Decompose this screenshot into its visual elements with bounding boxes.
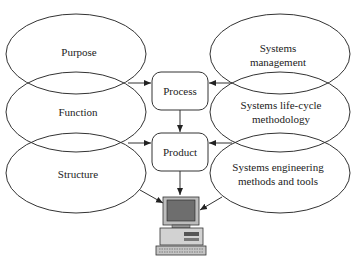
- product-label: Product: [163, 146, 197, 158]
- systems-engineering-label-2: methods and tools: [238, 175, 318, 187]
- systems-lifecycle-label-2: methodology: [252, 113, 311, 125]
- function-label: Function: [58, 106, 98, 118]
- systems-management-label-2: management: [250, 56, 306, 68]
- systems-engineering-ellipse: [210, 133, 350, 213]
- systems-diagram: Purpose Function Structure Systems manag…: [0, 0, 356, 260]
- systems-management-ellipse: [210, 14, 350, 94]
- process-label: Process: [163, 85, 197, 97]
- computer-icon: [156, 197, 206, 255]
- systems-lifecycle-ellipse: [210, 72, 350, 152]
- systems-management-label-1: Systems: [260, 42, 297, 54]
- structure-label: Structure: [58, 168, 98, 180]
- arrow-structure-computer: [140, 190, 163, 203]
- systems-engineering-label-1: Systems engineering: [232, 161, 324, 173]
- arrow-engineering-computer: [200, 197, 222, 210]
- purpose-label: Purpose: [61, 46, 97, 58]
- systems-lifecycle-label-1: Systems life-cycle: [241, 99, 322, 111]
